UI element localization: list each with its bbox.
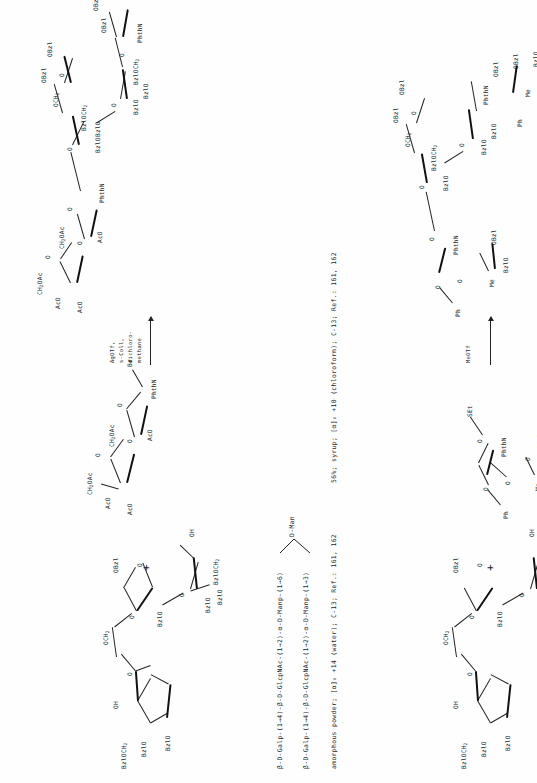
label-o: O: [44, 255, 51, 259]
label-bzlo-ch2: BzlOCH2: [80, 104, 89, 131]
label-bzlo: BzlO: [532, 51, 537, 67]
label-och2: OCH2: [102, 630, 111, 645]
label-o: O: [66, 207, 73, 211]
label-phthn: PhthN: [98, 183, 105, 203]
scheme-1: BzlO BzlO BzlOCH2 OH O OCH2 O BzlO OBzl …: [0, 0, 268, 783]
label-oh: OH: [112, 701, 119, 709]
reagent-line: AgOTf,: [108, 341, 116, 363]
scheme-2: BzlO BzlO BzlOCH2 OH O OCH2 O BzlO OBzl …: [380, 0, 537, 783]
label-o: O: [458, 143, 465, 147]
label-me: Me: [524, 89, 531, 97]
reaction-arrow-scheme-2: [490, 317, 491, 365]
product-name-line-2: β-D-Galp-(1→4)-β-D-GlcpNAc-(1→2)-α-D-Man…: [302, 572, 310, 769]
product-name-tail: D-Man: [288, 516, 296, 537]
label-ch2oac: CH2OAc: [86, 472, 95, 495]
label-ph: Ph: [502, 511, 509, 519]
label-o: O: [94, 453, 101, 457]
label-bzlo: BzlO: [442, 175, 449, 191]
label-obzl: OBzl: [452, 557, 459, 573]
label-bzlo: BzlO: [502, 257, 509, 273]
label-o: O: [504, 481, 511, 485]
reagent-line: dichloro-: [126, 331, 134, 363]
scanned-page: BzlO BzlO BzlOCH2 OH O OCH2 O BzlO OBzl …: [0, 0, 537, 783]
label-aco: AcO: [146, 429, 153, 441]
page-content-rotated: BzlO BzlO BzlOCH2 OH O OCH2 O BzlO OBzl …: [0, 0, 537, 783]
label-bzlo: BzlO: [496, 611, 503, 627]
label-o: O: [110, 103, 117, 107]
label-phthn: PhthN: [136, 23, 143, 43]
label-bzlo: BzlO: [490, 123, 497, 139]
label-obzl: OBzl: [92, 0, 99, 11]
label-me: Me: [488, 279, 495, 287]
label-o: O: [76, 241, 83, 245]
label-bzlo-ch2: BzlOCH2: [430, 144, 439, 171]
label-bzlo: BzlO: [132, 99, 139, 115]
label-obzl: OBzl: [112, 557, 119, 573]
label-ph: Ph: [454, 309, 461, 317]
label-o: O: [518, 593, 525, 597]
label-oh: OH: [452, 701, 459, 709]
product-properties: amorphous powder; [α]₀ +14 (water); C-13…: [330, 534, 338, 769]
label-o: O: [126, 672, 133, 676]
reaction-arrow-scheme-1: [150, 317, 151, 365]
label-o: O: [126, 439, 133, 443]
label-bzlo: BzlO: [504, 735, 511, 751]
label-phthn: PhthN: [500, 437, 507, 457]
label-obzl: OBzl: [392, 107, 399, 123]
label-bzlo: BzlO: [216, 589, 223, 605]
label-aco: AcO: [76, 301, 83, 313]
label-bzlo: BzlO: [156, 611, 163, 627]
product-name-brace: [278, 525, 314, 555]
label-bzlo-ch2: BzlOCH2: [132, 58, 141, 85]
label-bzlo: BzlO: [164, 735, 171, 751]
label-o: O: [476, 439, 483, 443]
label-o: O: [456, 279, 463, 283]
label-ch2oac: CH2OAc: [108, 424, 117, 447]
product-name-line-1: β-D-Galp-(1→4)-β-D-GlcpNAc-(1→2)-α-D-Man…: [276, 572, 284, 769]
label-bzlo-ch2: BzlOCH2: [460, 742, 469, 769]
yield-line-scheme-1: 56%; syrup; [α]₀ +10 (chloroform); C-13;…: [330, 252, 338, 483]
label-o: O: [128, 615, 135, 619]
label-bzlo-ch2: BzlOCH2: [120, 742, 129, 769]
label-bzlo: BzlO: [94, 121, 101, 137]
label-phthn: PhthN: [452, 235, 459, 255]
label-obzl: OBzl: [40, 67, 47, 83]
label-ch2oac: CH2OAc: [36, 272, 45, 295]
label-bzlo: BzlO: [480, 741, 487, 757]
label-aco: AcO: [104, 497, 111, 509]
label-phthn: PhthN: [150, 379, 157, 399]
label-o: O: [434, 285, 441, 289]
reagent-line: s-Coll,: [117, 338, 125, 363]
label-o: O: [116, 403, 123, 407]
label-ch2oac: CH2OAc: [58, 226, 67, 249]
label-bzlo: BzlO: [142, 83, 149, 99]
label-o: O: [418, 185, 425, 189]
label-obzl: OBzl: [46, 41, 53, 57]
label-aco: AcO: [96, 231, 103, 243]
label-bzlo: BzlO: [140, 741, 147, 757]
label-phthn: PhthN: [482, 85, 489, 105]
label-o: O: [66, 147, 73, 151]
label-o: O: [410, 111, 417, 115]
plus-sign-scheme-2: +: [484, 564, 497, 571]
label-set: SEt: [466, 405, 473, 417]
label-o: O: [468, 615, 475, 619]
label-o: O: [178, 593, 185, 597]
label-o: O: [466, 672, 473, 676]
label-obzl: OBzl: [492, 61, 499, 77]
label-bzlo-ch2: BzlOCH2: [212, 558, 221, 585]
scheme-1-text-block: β-D-Galp-(1→4)-β-D-GlcpNAc-(1→2)-α-D-Man…: [268, 0, 378, 783]
reagent-line: MeOTf: [464, 345, 472, 363]
reagent-line: methane: [135, 338, 143, 363]
label-o: O: [428, 237, 435, 241]
label-o: O: [482, 487, 489, 491]
label-oh: OH: [528, 529, 535, 537]
label-bzlo: BzlO: [480, 139, 487, 155]
label-ph: Ph: [516, 119, 523, 127]
label-obzl: OBzl: [100, 17, 107, 33]
label-aco: AcO: [126, 503, 133, 515]
label-o: O: [58, 73, 65, 77]
label-obzl: OBzl: [398, 79, 405, 95]
label-bzlo: BzlO: [94, 137, 101, 153]
label-o: O: [476, 563, 483, 567]
